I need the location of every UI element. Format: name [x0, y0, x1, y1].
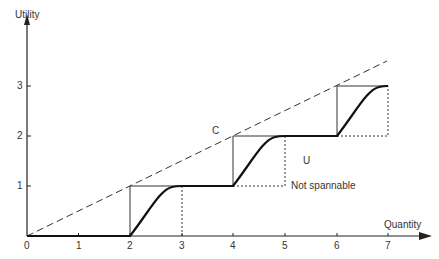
y-tick-label: 3	[17, 81, 23, 91]
y-axis-label: Utility	[15, 10, 39, 20]
x-tick-label: 5	[282, 241, 288, 251]
x-axis-label: Quantity	[384, 220, 421, 230]
x-tick-label: 6	[334, 241, 340, 251]
x-tick-label: 4	[230, 241, 236, 251]
step-outlines	[130, 86, 388, 236]
utility-diagram	[0, 0, 439, 259]
x-tick-label: 2	[127, 241, 133, 251]
y-tick-label: 2	[17, 131, 23, 141]
x-tick-label: 7	[385, 241, 391, 251]
curve-c-label: C	[212, 126, 219, 136]
x-tick-label: 0	[24, 241, 30, 251]
y-tick-label: 1	[17, 181, 23, 191]
x-tick-label: 3	[179, 241, 185, 251]
x-axis-arrow-icon	[419, 232, 432, 240]
x-tick-label: 1	[76, 241, 82, 251]
axes	[24, 14, 432, 240]
curve-u	[27, 86, 388, 236]
curve-u-label: U	[303, 156, 310, 166]
not-spannable-annotation: Not spannable	[291, 181, 356, 191]
curve-c	[27, 61, 387, 236]
